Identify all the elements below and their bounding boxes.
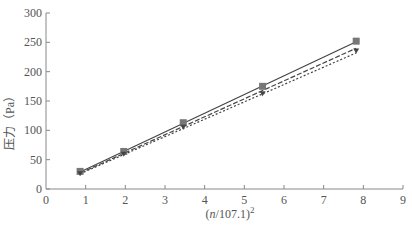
y-tick-label: 200 bbox=[24, 65, 42, 79]
x-tick-label: 9 bbox=[400, 193, 406, 207]
x-tick-label: 2 bbox=[122, 193, 128, 207]
x-tick-label: 6 bbox=[281, 193, 287, 207]
x-tick-label: 0 bbox=[43, 193, 49, 207]
y-axis-title: 压力（Pa） bbox=[3, 90, 17, 150]
fit-line-dotted bbox=[80, 53, 356, 174]
x-tick-label: 3 bbox=[162, 193, 168, 207]
x-tick-label: 8 bbox=[360, 193, 366, 207]
y-tick-label: 300 bbox=[24, 6, 42, 20]
square-marker bbox=[353, 38, 360, 45]
x-tick-label: 4 bbox=[202, 193, 208, 207]
triangle-marker bbox=[180, 125, 186, 130]
x-tick-label: 1 bbox=[83, 193, 89, 207]
triangle-marker bbox=[260, 91, 266, 96]
y-tick-label: 0 bbox=[36, 182, 42, 196]
y-tick-label: 50 bbox=[30, 153, 42, 167]
triangle-marker bbox=[353, 49, 359, 54]
axes: 0123456789050100150200250300 bbox=[24, 6, 406, 207]
y-tick-label: 250 bbox=[24, 35, 42, 49]
square-marker bbox=[259, 83, 266, 90]
x-tick-label: 5 bbox=[241, 193, 247, 207]
y-tick-label: 150 bbox=[24, 94, 42, 108]
x-axis-title: (n/107.1)2 bbox=[206, 205, 255, 221]
x-tick-label: 7 bbox=[321, 193, 327, 207]
chart-canvas: 0123456789050100150200250300 压力（Pa） (n/1… bbox=[0, 0, 412, 228]
y-tick-label: 100 bbox=[24, 123, 42, 137]
